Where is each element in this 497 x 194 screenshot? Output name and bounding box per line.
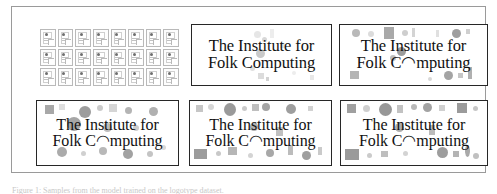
noise-blob-circle — [423, 103, 432, 112]
noise-blob-square — [350, 71, 359, 79]
noise-blob-circle — [352, 29, 360, 37]
noise-blob-circle — [302, 151, 311, 160]
logotype-line-1: The Institute for — [190, 117, 331, 133]
document-thumbnail — [75, 68, 91, 86]
noise-blob-square — [45, 105, 54, 114]
sample-panel-3: The Institute for Folk C◠mputing — [36, 100, 179, 166]
noise-blob-square — [397, 105, 403, 113]
noise-blob-square — [252, 104, 259, 111]
noise-blob-circle — [208, 104, 214, 110]
logotype-line-2: Folk C◠mputing — [341, 133, 487, 149]
noise-blob-square — [109, 104, 117, 112]
noise-blob-circle — [286, 104, 296, 114]
document-thumbnail — [111, 49, 127, 67]
noise-blob-circle — [402, 30, 408, 36]
noise-blob-square — [466, 29, 470, 34]
logotype-line-2: Folk Computing — [192, 55, 331, 72]
sample-panel-2: The Institute for Folk C◠mputing — [339, 24, 488, 86]
noise-blob-square — [310, 75, 314, 80]
noise-blob-circle — [242, 106, 247, 111]
document-thumbnail — [40, 29, 56, 47]
noise-blob-circle — [266, 149, 274, 157]
noise-blob-square — [345, 149, 359, 160]
noise-blob-square — [453, 151, 459, 157]
logotype-text: The Institute for Folk C◠mputing — [340, 38, 487, 72]
document-thumbnail — [40, 49, 56, 67]
noise-blob-square — [457, 103, 467, 113]
document-thumbnail — [128, 29, 144, 47]
noise-blob-square — [308, 106, 313, 111]
noise-blob-square — [347, 104, 356, 113]
noise-blob-square — [458, 73, 463, 78]
noise-blob-circle — [248, 153, 253, 158]
noise-blob-circle — [428, 77, 432, 81]
document-thumbnail — [163, 68, 179, 86]
document-thumbnail — [58, 49, 74, 67]
document-thumbnail — [58, 68, 74, 86]
noise-blob-circle — [444, 71, 453, 80]
document-thumbnail — [146, 49, 162, 67]
logotype-line-1: The Institute for — [37, 117, 178, 133]
logotype-line-2: Folk C◠mputing — [340, 55, 487, 72]
logotype-text: The Institute for Folk C◠mputing — [37, 117, 178, 150]
sample-panel-5: The Institute for Folk C◠mputing — [340, 100, 488, 166]
logotype-text: The Institute for Folk C◠mputing — [341, 117, 487, 150]
noise-blob-square — [381, 151, 388, 157]
document-thumbnail — [128, 68, 144, 86]
document-thumbnail — [146, 68, 162, 86]
noise-blob-circle — [224, 103, 236, 116]
noise-blob-square — [194, 149, 207, 159]
noise-blob-square — [258, 73, 264, 79]
noise-blob-circle — [379, 103, 392, 116]
noise-blob-circle — [125, 107, 132, 114]
noise-blob-circle — [473, 106, 478, 111]
noise-blob-square — [59, 104, 65, 110]
document-thumbnail — [58, 29, 74, 47]
document-thumbnail — [75, 49, 91, 67]
noise-blob-circle — [81, 151, 86, 156]
figure-container: The Institute for Folk Computing The Ins… — [0, 0, 497, 194]
noise-blob-circle — [403, 151, 408, 156]
noise-blob-circle — [367, 153, 372, 158]
document-thumbnail — [163, 29, 179, 47]
document-thumbnail — [111, 68, 127, 86]
noise-blob-square — [439, 105, 445, 111]
document-thumbnail — [75, 29, 91, 47]
logotype-text: The Institute for Folk Computing — [192, 38, 331, 72]
logotype-text: The Institute for Folk C◠mputing — [190, 117, 331, 150]
sample-panel-4: The Institute for Folk C◠mputing — [189, 100, 332, 166]
sample-panel-1: The Institute for Folk Computing — [191, 24, 332, 86]
document-thumbnail — [111, 29, 127, 47]
document-thumbnail — [93, 68, 109, 86]
document-thumbnail — [93, 49, 109, 67]
figure-frame: The Institute for Folk Computing The Ins… — [11, 6, 486, 173]
noise-blob-circle — [147, 151, 153, 157]
logotype-line-2: Folk C◠mputing — [190, 133, 331, 149]
noise-blob-square — [196, 105, 203, 112]
noise-blob-circle — [473, 153, 479, 159]
noise-blob-circle — [262, 103, 270, 111]
document-thumbnail — [146, 29, 162, 47]
logotype-line-1: The Institute for — [341, 117, 487, 133]
logotype-line-2: Folk C◠mputing — [37, 133, 178, 149]
training-thumbnail-grid — [40, 29, 179, 86]
document-thumbnail — [40, 68, 56, 86]
noise-blob-circle — [363, 105, 370, 112]
noise-blob-circle — [216, 151, 221, 156]
noise-blob-circle — [123, 149, 133, 159]
document-thumbnail — [128, 49, 144, 67]
noise-blob-circle — [149, 107, 158, 116]
noise-blob-circle — [97, 105, 103, 111]
document-thumbnail — [93, 29, 109, 47]
noise-blob-square — [266, 77, 269, 81]
figure-caption: Figure 1: Samples from the model trained… — [12, 186, 482, 194]
noise-blob-circle — [411, 104, 417, 110]
document-thumbnail — [163, 49, 179, 67]
